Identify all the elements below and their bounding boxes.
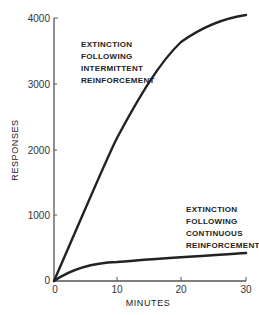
chart: 4000 3000 2000 1000 0 0 10 20 30 RESPONS… [0,0,259,315]
annotation-continuous: EXTINCTION FOLLOWING CONTINUOUS REINFORC… [186,205,259,250]
svg-text:REINFORCEMENT: REINFORCEMENT [186,241,259,250]
y-tick-label: 3000 [28,79,51,90]
x-axis-label: MINUTES [126,298,171,308]
x-tick-label: 10 [111,284,123,295]
svg-text:REINFORCEMENT: REINFORCEMENT [81,76,155,85]
y-axis-label: RESPONSES [10,119,20,180]
y-tick-label: 2000 [28,145,51,156]
x-ticks: 0 10 20 30 [52,277,252,295]
x-tick-label: 20 [175,284,187,295]
svg-text:FOLLOWING: FOLLOWING [186,217,238,226]
y-tick-label: 1000 [28,210,51,221]
y-tick-label: 0 [44,275,50,286]
svg-text:CONTINUOUS: CONTINUOUS [186,229,243,238]
svg-text:FOLLOWING: FOLLOWING [81,52,133,61]
x-tick-label: 30 [240,284,252,295]
y-tick-label: 4000 [28,13,51,24]
svg-text:EXTINCTION: EXTINCTION [81,40,132,49]
annotation-intermittent: EXTINCTION FOLLOWING INTERMITTENT REINFO… [81,40,155,85]
svg-text:INTERMITTENT: INTERMITTENT [81,64,143,73]
series-continuous-curve [54,253,246,281]
x-tick-label: 0 [52,284,58,295]
svg-text:EXTINCTION: EXTINCTION [186,205,237,214]
